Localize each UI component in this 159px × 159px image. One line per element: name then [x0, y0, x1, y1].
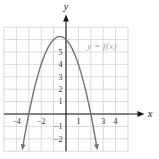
- curve-end-arrow-icon: [94, 144, 99, 150]
- y-tick-label: 1: [59, 97, 63, 106]
- x-axis-arrow-icon: [138, 111, 145, 117]
- curve-label: y = f(x): [86, 41, 116, 51]
- graph-canvas: −4−2134 54321−1−2 x y y = f(x): [0, 0, 159, 159]
- x-tick-label: 4: [114, 117, 118, 126]
- y-tick-label: −2: [54, 135, 63, 144]
- y-tick-label: 2: [59, 85, 63, 94]
- y-axis-label: y: [63, 1, 69, 12]
- y-tick-label: 4: [59, 60, 63, 69]
- y-tick-label: 3: [59, 73, 63, 82]
- x-tick-label: 3: [101, 117, 105, 126]
- x-tick-label: −2: [37, 117, 46, 126]
- x-tick-label: −4: [12, 117, 21, 126]
- function-graph-figure: −4−2134 54321−1−2 x y y = f(x): [0, 0, 159, 159]
- y-axis-arrow-icon: [63, 15, 69, 22]
- x-axis-label: x: [147, 108, 153, 119]
- curve-end-arrow-icon: [21, 144, 26, 150]
- y-tick-labels: 54321−1−2: [54, 48, 63, 144]
- y-tick-label: −1: [54, 122, 63, 131]
- y-tick-label: 5: [59, 48, 63, 57]
- x-tick-label: 1: [76, 117, 80, 126]
